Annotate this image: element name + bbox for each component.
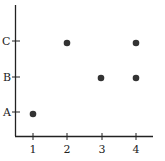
data-point: [64, 40, 71, 47]
data-point: [133, 40, 140, 47]
y-tick-label: B: [3, 71, 11, 84]
x-tick-label: 1: [30, 143, 37, 156]
y-tick-label: A: [2, 106, 12, 119]
data-points: [30, 40, 140, 118]
data-point: [30, 111, 37, 118]
data-point: [133, 75, 140, 82]
x-tick-label: 4: [133, 143, 140, 156]
y-ticks: A B C: [2, 35, 20, 119]
data-point: [98, 75, 105, 82]
scatter-chart: 1 2 3 4 A B C: [0, 0, 165, 161]
x-tick-label: 2: [64, 143, 71, 156]
y-tick-label: C: [2, 35, 10, 48]
x-tick-label: 3: [99, 143, 106, 156]
